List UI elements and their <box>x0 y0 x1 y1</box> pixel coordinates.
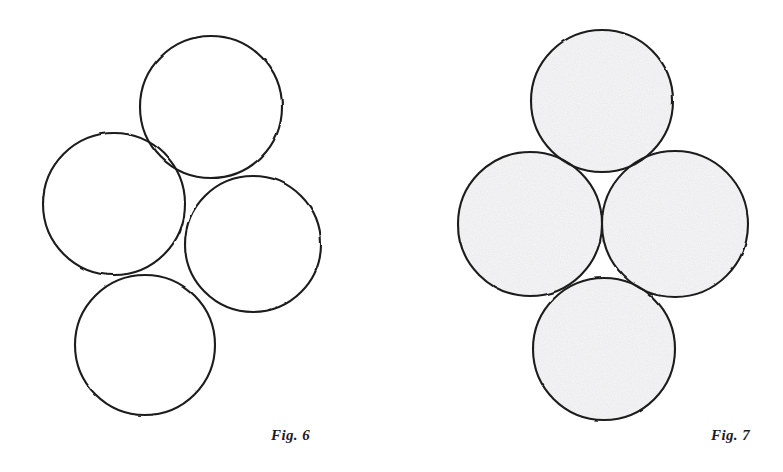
figure-6-panel: Fig. 6 <box>0 0 391 472</box>
figure-6-left-circle <box>43 133 185 275</box>
figure-7-panel: Fig. 7 <box>391 0 783 472</box>
figure-6-top-circle <box>140 36 282 178</box>
figure-6-right-circle <box>185 176 321 312</box>
figure-6-caption: Fig. 6 <box>271 428 310 443</box>
figure-7-caption: Fig. 7 <box>711 428 750 443</box>
figure-plate: Fig. 6 <box>0 0 783 472</box>
figure-6-drawing <box>0 0 391 472</box>
figure-7-drawing <box>391 0 783 472</box>
figure-6-bottom-circle <box>75 275 215 415</box>
